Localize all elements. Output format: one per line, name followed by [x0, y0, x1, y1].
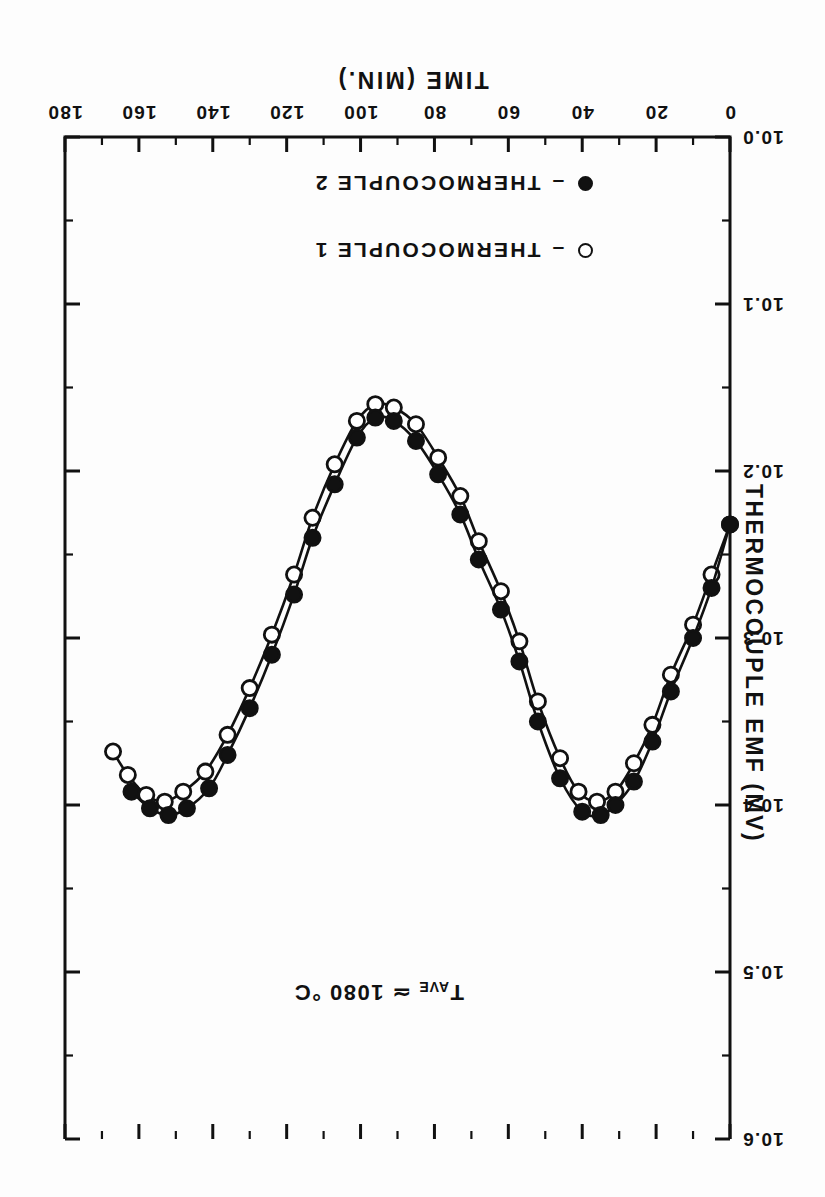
- filled-data-point: [512, 654, 527, 669]
- y-axis-title-wrapper: THERMOCOUPLE EMF (MV): [740, 364, 767, 964]
- filled-data-point: [408, 433, 423, 448]
- x-tick-label: 140: [195, 101, 230, 123]
- open-data-point: [220, 727, 235, 742]
- filled-data-point: [663, 684, 678, 699]
- series-line: [113, 403, 730, 801]
- filled-data-point: [327, 477, 342, 492]
- filled-data-point: [626, 774, 641, 789]
- filled-data-point: [142, 801, 157, 816]
- open-data-point: [176, 784, 191, 799]
- filled-data-point: [161, 807, 176, 822]
- annotation-subscript: AVE: [418, 980, 449, 996]
- filled-data-point: [349, 430, 364, 445]
- filled-data-point: [179, 801, 194, 816]
- y-tick-label: 10.2: [742, 460, 822, 482]
- filled-data-point: [453, 507, 468, 522]
- filled-data-point: [530, 714, 545, 729]
- legend-label-1: THERMOCOUPLE 1: [314, 238, 541, 262]
- open-data-point: [408, 417, 423, 432]
- open-data-point: [349, 413, 364, 428]
- legend-dash-1: –: [550, 238, 564, 262]
- y-tick-label: 10.4: [742, 794, 822, 816]
- filled-data-point: [704, 580, 719, 595]
- x-tick-label: 120: [269, 101, 304, 123]
- filled-data-point: [242, 701, 257, 716]
- open-data-point: [120, 767, 135, 782]
- annotation-value: ≃ 1080 °C: [293, 980, 418, 1005]
- filled-data-point: [722, 517, 737, 532]
- filled-data-point: [471, 552, 486, 567]
- filled-data-point: [608, 797, 623, 812]
- y-tick-label: 10.0: [742, 126, 822, 148]
- x-tick-label: 40: [570, 101, 594, 123]
- filled-data-point: [575, 804, 590, 819]
- scanned-figure-page: TIME (MIN.) THERMOCOUPLE EMF (MV) 020406…: [0, 0, 825, 1197]
- open-data-point: [431, 450, 446, 465]
- data-series-1: [105, 397, 737, 810]
- filled-data-point: [593, 807, 608, 822]
- x-tick-label: 0: [724, 101, 736, 123]
- x-tick-label: 20: [644, 101, 668, 123]
- open-data-point: [571, 784, 586, 799]
- filled-data-point: [201, 781, 216, 796]
- x-tick-label: 160: [121, 101, 156, 123]
- filled-data-point: [286, 587, 301, 602]
- open-data-point: [198, 764, 213, 779]
- chart-figure: TIME (MIN.) THERMOCOUPLE EMF (MV) 020406…: [0, 0, 825, 1197]
- filled-data-point: [685, 630, 700, 645]
- legend-dash-2: –: [550, 171, 564, 195]
- y-axis-title: THERMOCOUPLE EMF (MV): [741, 484, 767, 843]
- legend-item-thermocouple-1: – THERMOCOUPLE 1: [314, 238, 594, 262]
- data-series-2: [124, 410, 738, 823]
- y-tick-label: 10.6: [742, 1128, 822, 1150]
- x-tick-label: 180: [47, 101, 82, 123]
- x-tick-label: 60: [497, 101, 521, 123]
- legend-item-thermocouple-2: – THERMOCOUPLE 2: [314, 171, 594, 195]
- open-circle-marker-icon: [578, 243, 593, 258]
- filled-data-point: [386, 413, 401, 428]
- y-tick-label: 10.3: [742, 627, 822, 649]
- legend-label-2: THERMOCOUPLE 2: [314, 171, 541, 195]
- rotated-figure-container: TIME (MIN.) THERMOCOUPLE EMF (MV) 020406…: [0, 0, 825, 1197]
- x-tick-label: 80: [423, 101, 447, 123]
- y-tick-label: 10.1: [742, 293, 822, 315]
- filled-circle-marker-icon: [578, 176, 593, 191]
- filled-data-point: [368, 410, 383, 425]
- filled-data-point: [220, 747, 235, 762]
- x-tick-label: 100: [343, 101, 378, 123]
- t-average-annotation: TAVE ≃ 1080 °C: [293, 979, 464, 1005]
- x-axis-title: TIME (MIN.): [0, 66, 825, 93]
- annotation-symbol: T: [449, 980, 464, 1005]
- filled-data-point: [264, 647, 279, 662]
- y-tick-label: 10.5: [742, 961, 822, 983]
- filled-data-point: [552, 771, 567, 786]
- open-data-point: [105, 744, 120, 759]
- filled-data-point: [645, 734, 660, 749]
- filled-data-point: [124, 784, 139, 799]
- filled-data-point: [493, 602, 508, 617]
- filled-data-point: [431, 467, 446, 482]
- filled-data-point: [305, 530, 320, 545]
